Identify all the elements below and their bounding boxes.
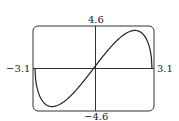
x-min-label: −3.1 xyxy=(6,64,30,74)
y-max-label: 4.6 xyxy=(88,15,104,25)
x-max-label: 3.1 xyxy=(157,64,173,74)
y-min-label: −4.6 xyxy=(84,112,108,121)
